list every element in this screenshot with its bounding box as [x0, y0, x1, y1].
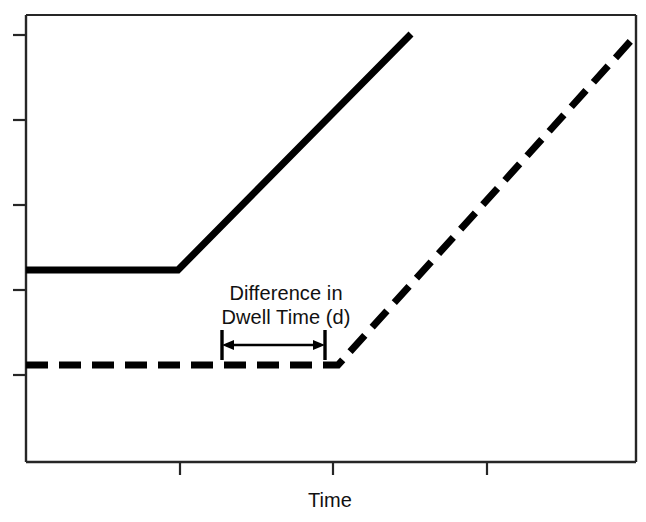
- chart-figure: Difference in Dwell Time (d) Time: [0, 0, 646, 522]
- plot-area: [0, 0, 646, 522]
- axes-frame: [26, 15, 636, 462]
- x-axis-ticks: [180, 462, 487, 475]
- series-solid-baseline: [26, 34, 411, 270]
- x-axis-title: Time: [255, 488, 405, 512]
- annotation-line-2: Dwell Time (d): [206, 305, 366, 329]
- y-axis-ticks: [13, 35, 26, 375]
- dwell-difference-arrow: [222, 330, 325, 360]
- dwell-difference-label: Difference in Dwell Time (d): [206, 281, 366, 329]
- annotation-line-1: Difference in: [206, 281, 366, 305]
